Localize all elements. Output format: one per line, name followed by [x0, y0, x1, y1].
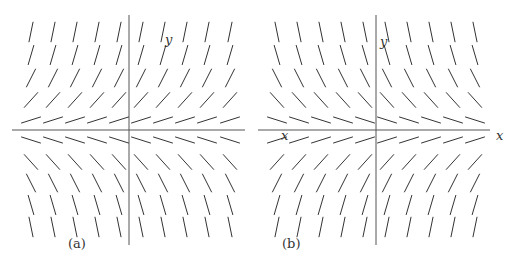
direction-segment — [468, 155, 481, 170]
direction-segment — [275, 22, 279, 42]
direction-segment — [93, 174, 102, 192]
direction-segment — [46, 93, 59, 108]
direction-segment — [159, 69, 168, 87]
direction-segment — [51, 22, 55, 42]
direction-segment — [204, 195, 210, 214]
direction-segment — [161, 217, 165, 237]
direction-segment — [132, 117, 151, 123]
direction-segment — [468, 93, 481, 108]
direction-segment — [154, 117, 173, 123]
direction-segment — [22, 117, 41, 123]
direction-segment — [361, 174, 370, 192]
direction-segment — [73, 217, 77, 237]
direction-segment — [274, 195, 280, 214]
direction-segment — [137, 69, 146, 87]
direction-segment — [115, 174, 124, 192]
direction-segment — [290, 117, 309, 123]
direction-segment — [200, 93, 213, 108]
direction-segment — [451, 217, 455, 237]
direction-segment — [358, 155, 371, 170]
direction-segment — [51, 217, 55, 237]
direction-segment — [139, 217, 143, 237]
direction-segment — [268, 117, 287, 123]
direction-segment — [227, 45, 233, 64]
direction-segment — [341, 22, 345, 42]
direction-segment — [49, 69, 58, 87]
direction-segment — [428, 195, 434, 214]
direction-segment — [73, 22, 77, 42]
direction-segment — [385, 217, 389, 237]
direction-segment — [473, 22, 477, 42]
panel-b-x-label: x — [496, 128, 504, 143]
direction-segment — [198, 117, 217, 123]
direction-segment — [336, 155, 349, 170]
direction-segment — [312, 117, 331, 123]
direction-segment — [27, 69, 36, 87]
direction-segment — [29, 217, 33, 237]
direction-segment — [160, 45, 166, 64]
direction-segment — [318, 195, 324, 214]
direction-segment — [28, 45, 34, 64]
direction-segment — [156, 155, 169, 170]
direction-segment — [200, 155, 213, 170]
direction-segment — [405, 69, 414, 87]
direction-segment — [449, 174, 458, 192]
direction-segment — [221, 137, 240, 143]
direction-segment — [466, 117, 485, 123]
direction-segment — [471, 69, 480, 87]
direction-segment — [198, 137, 217, 143]
direction-segment — [292, 93, 305, 108]
direction-segment — [471, 174, 480, 192]
direction-segment — [270, 93, 283, 108]
direction-segment — [44, 117, 63, 123]
direction-segment — [112, 93, 125, 108]
direction-segment — [46, 155, 59, 170]
direction-segment — [466, 137, 485, 143]
direction-segment — [44, 137, 63, 143]
direction-segment — [49, 174, 58, 192]
direction-segment — [182, 195, 188, 214]
direction-segment — [356, 117, 375, 123]
direction-segment — [362, 195, 368, 214]
direction-segment — [66, 137, 85, 143]
direction-segment — [95, 217, 99, 237]
direction-segment — [314, 93, 327, 108]
direction-segment — [94, 45, 100, 64]
direction-segment — [72, 195, 78, 214]
direction-segment — [406, 195, 412, 214]
direction-segment — [182, 45, 188, 64]
direction-segment — [297, 22, 301, 42]
direction-segment — [274, 45, 280, 64]
direction-segment — [24, 155, 37, 170]
direction-segment — [134, 93, 147, 108]
direction-segment — [203, 69, 212, 87]
direction-segment — [159, 174, 168, 192]
direction-segment — [183, 217, 187, 237]
direction-segment — [472, 195, 478, 214]
slope-field-figure: y (a) y x x (b) — [0, 0, 520, 256]
direction-segment — [93, 69, 102, 87]
direction-segment — [450, 45, 456, 64]
direction-segment — [312, 137, 331, 143]
direction-segment — [361, 69, 370, 87]
direction-segment — [50, 195, 56, 214]
direction-segment — [362, 45, 368, 64]
panel-a-caption: (a) — [68, 236, 86, 251]
direction-segment — [273, 174, 282, 192]
direction-segment — [270, 155, 283, 170]
direction-segment — [27, 174, 36, 192]
direction-segment — [296, 195, 302, 214]
direction-segment — [292, 155, 305, 170]
direction-segment — [450, 195, 456, 214]
direction-segment — [134, 155, 147, 170]
panel-b-slope-field: y x x (b) — [258, 15, 504, 251]
direction-segment — [380, 155, 393, 170]
direction-segment — [221, 117, 240, 123]
direction-segment — [138, 195, 144, 214]
direction-segment — [227, 195, 233, 214]
direction-segment — [178, 155, 191, 170]
direction-segment — [384, 195, 390, 214]
direction-segment — [112, 155, 125, 170]
direction-segment — [66, 117, 85, 123]
direction-segment — [117, 217, 121, 237]
